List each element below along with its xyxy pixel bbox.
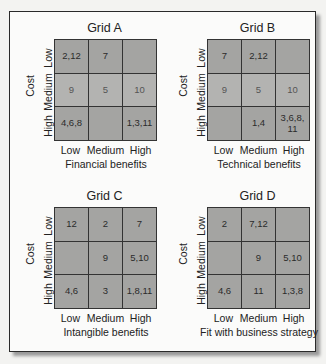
x-level-labels: Low Medium High [54,312,157,324]
grid-cell: 5,10 [276,242,309,275]
grid-cell: 3,6,8, 11 [276,107,309,140]
grid-title: Grid D [205,189,310,203]
cost-benefit-grid: 2 7,12 9 5,10 4,6 11 1,3,8 [207,207,310,309]
grid-cell: 5,10 [123,242,156,275]
grid-cell: 2,12 [55,40,88,73]
grid-cell: 10 [123,74,156,107]
grid-cell: 9 [55,74,88,107]
y-axis-title: Cost [177,66,189,106]
y-level-high: High [42,106,54,146]
grid-cell: 4,6,8 [55,107,88,140]
grid-cell [55,242,88,275]
y-level-high: High [42,274,54,314]
grid-cell [208,242,241,275]
x-level-labels: Low Medium High [207,144,310,156]
x-axis-title: Fit with business strategy [199,326,319,339]
grid-c-panel: Grid C Low Medium High Cost 12 2 7 9 5,1… [10,180,162,348]
cost-benefit-grid: 7 2,12 9 5 10 1,4 3,6,8, 11 [207,39,310,141]
x-level-high: High [277,144,310,156]
x-level-labels: Low Medium High [207,312,310,324]
x-level-high: High [124,144,157,156]
grid-cell: 11 [242,275,275,308]
y-level-high: High [195,274,207,314]
x-axis-title: Intangible benefits [46,326,166,339]
grid-cell [123,40,156,73]
grid-cell: 4,6 [208,275,241,308]
grid-cell: 9 [208,74,241,107]
x-level-high: High [124,312,157,324]
x-level-low: Low [54,144,87,156]
x-axis-title: Technical benefits [199,158,319,171]
grid-cell: 2 [208,208,241,241]
grid-cell: 2 [89,208,122,241]
x-level-medium: Medium [87,312,124,324]
grid-cell: 9 [242,242,275,275]
grid-cell: 1,3,8 [276,275,309,308]
grid-cell: 1,8,11 [123,275,156,308]
grid-cell: 9 [89,242,122,275]
cost-benefit-grid: 12 2 7 9 5,10 4,6 3 1,8,11 [54,207,157,309]
grid-cell: 12 [55,208,88,241]
y-level-high: High [195,106,207,146]
y-axis-title: Cost [24,66,36,106]
grid-cell: 3 [89,275,122,308]
grid-cell: 5 [89,74,122,107]
grid-cell: 4,6 [55,275,88,308]
x-axis-title: Financial benefits [46,158,166,171]
grid-cell [276,40,309,73]
grid-cell: 1,4 [242,107,275,140]
x-level-labels: Low Medium High [54,144,157,156]
grid-b-panel: Grid B Low Medium High Cost 7 2,12 9 5 1… [163,12,315,180]
grid-cell: 5 [242,74,275,107]
x-level-high: High [277,312,310,324]
figure-frame: Grid A Low Medium High Cost 2,12 7 9 5 1… [9,11,316,352]
x-level-medium: Medium [240,144,277,156]
grid-cell: 7 [208,40,241,73]
y-axis-title: Cost [177,234,189,274]
grid-d-panel: Grid D Low Medium High Cost 2 7,12 9 5,1… [163,180,315,348]
x-level-medium: Medium [87,144,124,156]
grid-cell: 7,12 [242,208,275,241]
grid-cell: 10 [276,74,309,107]
x-level-low: Low [54,312,87,324]
cost-benefit-grid: 2,12 7 9 5 10 4,6,8 1,3,11 [54,39,157,141]
grid-cell [208,107,241,140]
grid-title: Grid C [52,189,157,203]
grid-cell: 7 [123,208,156,241]
x-level-low: Low [207,312,240,324]
y-axis-title: Cost [24,234,36,274]
grid-a-panel: Grid A Low Medium High Cost 2,12 7 9 5 1… [10,12,162,180]
grid-cell: 7 [89,40,122,73]
grid-cell [276,208,309,241]
x-level-medium: Medium [240,312,277,324]
grid-cell [89,107,122,140]
x-level-low: Low [207,144,240,156]
grid-title: Grid B [205,21,310,35]
grid-cell: 2,12 [242,40,275,73]
grid-title: Grid A [52,21,157,35]
grid-cell: 1,3,11 [123,107,156,140]
